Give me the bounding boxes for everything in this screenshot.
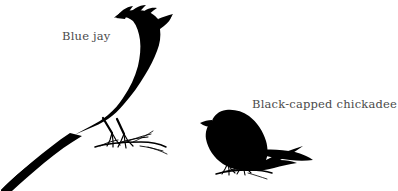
label-blue-jay: Blue jay	[62, 31, 111, 43]
bird-silhouettes-canvas	[0, 0, 398, 191]
label-black-capped-chickadee: Black-capped chickadee	[252, 99, 397, 111]
figure-background	[0, 0, 398, 191]
bird-comparison-figure: Blue jay Black-capped chickadee	[0, 0, 398, 191]
